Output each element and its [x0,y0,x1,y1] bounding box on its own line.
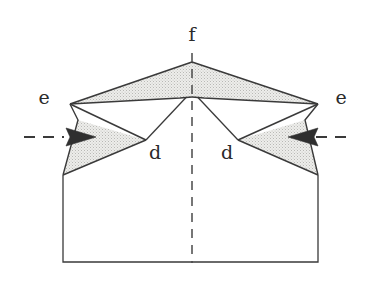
label-left-inner-d: d [149,141,161,163]
folded-structure-figure: f e e d d [0,0,370,284]
label-right-inner-d: d [221,141,233,163]
label-left-outer-e: e [38,86,49,108]
label-right-outer-e: e [335,86,346,108]
diagram-root: f e e d d [0,0,370,284]
